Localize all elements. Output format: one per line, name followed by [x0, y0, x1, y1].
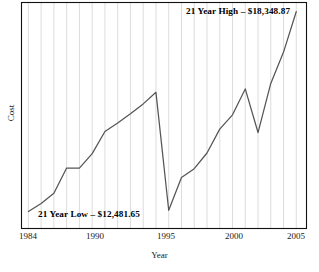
y-axis-title: Cost — [6, 93, 16, 133]
data-series-line — [28, 12, 296, 212]
x-tick-1995: 1995 — [146, 231, 186, 241]
x-tick-1990: 1990 — [75, 231, 115, 241]
low-value-annotation: 21 Year Low – $12,481.65 — [38, 209, 140, 219]
high-value-annotation: 21 Year High – $18,348.87 — [186, 6, 290, 16]
line-chart: Cost Year 19841990199520002005 21 Year H… — [0, 0, 319, 272]
x-axis-title: Year — [0, 250, 319, 260]
plot-frame — [22, 3, 307, 229]
x-tick-2005: 2005 — [276, 231, 316, 241]
gridlines — [28, 3, 296, 228]
x-tick-1984: 1984 — [8, 231, 48, 241]
x-tick-2000: 2000 — [214, 231, 254, 241]
